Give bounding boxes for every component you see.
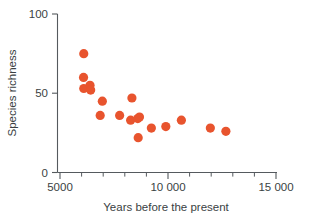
scatter-point bbox=[177, 116, 186, 125]
scatter-point bbox=[98, 97, 107, 106]
y-axis-ticks bbox=[52, 14, 58, 173]
scatter-points-layer bbox=[79, 49, 231, 142]
x-axis-label: Years before the present bbox=[103, 201, 229, 213]
chart-svg: 100 50 0 5000 10 000 15 000 Species rich… bbox=[0, 0, 322, 221]
x-axis-ticks bbox=[60, 173, 276, 180]
scatter-point bbox=[206, 124, 215, 133]
scatter-point bbox=[127, 93, 136, 102]
scatter-point bbox=[79, 73, 88, 82]
x-ticklabel-5000: 5000 bbox=[47, 181, 73, 193]
scatter-point bbox=[79, 49, 88, 58]
x-ticklabel-10000: 10 000 bbox=[150, 181, 185, 193]
scatter-point bbox=[147, 124, 156, 133]
scatter-point bbox=[96, 111, 105, 120]
y-ticklabel-50: 50 bbox=[35, 87, 48, 99]
scatter-point bbox=[221, 127, 230, 136]
scatter-point bbox=[115, 111, 124, 120]
scatter-point bbox=[161, 122, 170, 131]
scatter-point bbox=[135, 112, 144, 121]
scatter-point bbox=[134, 133, 143, 142]
scatter-chart-figure: 100 50 0 5000 10 000 15 000 Species rich… bbox=[0, 0, 322, 221]
scatter-point bbox=[86, 85, 95, 94]
y-axis-label: Species richness bbox=[6, 49, 18, 136]
y-ticklabel-100: 100 bbox=[29, 8, 48, 20]
y-ticklabel-0: 0 bbox=[42, 167, 48, 179]
x-ticklabel-15000: 15 000 bbox=[258, 181, 293, 193]
